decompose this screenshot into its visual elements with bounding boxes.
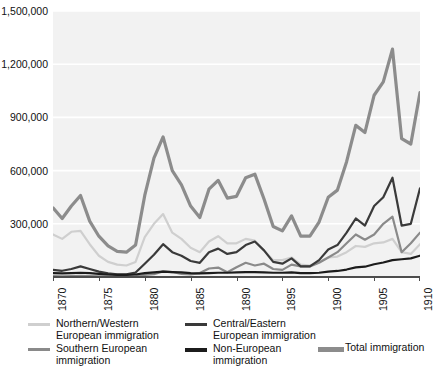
x-axis-tick-mark <box>374 277 375 281</box>
legend-item-central-eastern[interactable]: Central/Eastern European immigration <box>185 318 316 341</box>
legend-label-non-european: Non-European immigration <box>213 343 281 366</box>
x-axis-tick-label: 1880 <box>149 288 160 311</box>
x-axis-tick-label: 1900 <box>332 288 343 311</box>
x-axis-tick-label: 1890 <box>241 288 252 311</box>
x-axis-tick-mark <box>145 277 146 281</box>
legend-swatch-northern-western <box>28 323 50 326</box>
y-axis-tick-label: 900,000 <box>0 112 48 123</box>
data-series-line <box>53 49 420 252</box>
x-axis-tick-mark <box>191 277 192 281</box>
x-axis-tick-mark <box>53 277 54 281</box>
legend-item-northern-western[interactable]: Northern/Western European immigration <box>28 318 159 341</box>
x-axis-tick-label: 1895 <box>286 288 297 311</box>
legend-label-total: Total immigration <box>345 342 424 354</box>
legend-item-total[interactable]: Total immigration <box>318 342 424 354</box>
x-axis-tick-mark <box>237 277 238 281</box>
data-series-group <box>53 49 420 276</box>
legend-label-northern-western: Northern/Western European immigration <box>56 318 159 341</box>
legend-label-southern-european: Southern European immigration <box>56 343 147 366</box>
x-axis-tick-mark <box>99 277 100 281</box>
data-series-line <box>53 256 420 275</box>
gridlines <box>53 11 420 224</box>
legend-swatch-southern-european <box>28 348 50 351</box>
legend-item-southern-european[interactable]: Southern European immigration <box>28 343 147 366</box>
x-axis-tick-mark <box>328 277 329 281</box>
x-axis-tick-label: 1885 <box>195 288 206 311</box>
x-axis-tick-mark <box>419 277 420 281</box>
y-axis-tick-label: 600,000 <box>0 166 48 177</box>
data-series-line <box>53 178 420 275</box>
y-axis-tick-label: 1,500,000 <box>0 6 48 17</box>
x-axis-tick-label: 1870 <box>57 288 68 311</box>
legend-item-non-european[interactable]: Non-European immigration <box>185 343 281 366</box>
plot-area <box>53 11 420 277</box>
legend-label-central-eastern: Central/Eastern European immigration <box>213 318 316 341</box>
x-axis-tick-mark <box>282 277 283 281</box>
plot-canvas <box>53 11 420 277</box>
x-axis-tick-label: 1905 <box>378 288 389 311</box>
y-axis-tick-label: 300,000 <box>0 219 48 230</box>
legend-swatch-central-eastern <box>185 323 207 326</box>
legend-swatch-non-european <box>185 348 207 352</box>
y-axis-tick-label: 1,200,000 <box>0 59 48 70</box>
chart-legend: Northern/Western European immigration So… <box>0 316 429 367</box>
x-axis-tick-label: 1910 <box>423 288 434 311</box>
x-axis-tick-label: 1875 <box>103 288 114 311</box>
legend-swatch-total <box>318 347 344 352</box>
